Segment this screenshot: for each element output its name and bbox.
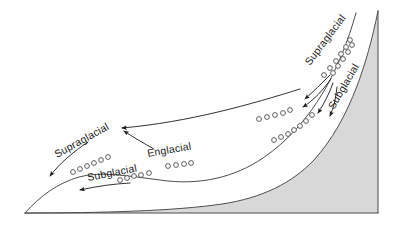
debris-particle [310, 113, 315, 118]
debris-particle [272, 138, 277, 143]
debris-particle [281, 111, 286, 116]
debris-particle [99, 158, 104, 163]
debris-particle [189, 161, 194, 166]
debris-particle [92, 161, 97, 166]
debris-particle [339, 52, 344, 57]
debris-particle [118, 178, 123, 183]
debris-particle [288, 108, 293, 113]
debris-englacial-right [257, 108, 293, 122]
debris-particle [85, 164, 90, 169]
debris-particle [304, 119, 309, 124]
diagram-canvas: SupraglacialSubglacialEnglacialSupraglac… [0, 0, 402, 229]
debris-particle [273, 113, 278, 118]
debris-englacial-center [166, 161, 194, 169]
debris-particle [78, 167, 83, 172]
debris-particle [292, 128, 297, 133]
debris-particle [106, 155, 111, 160]
debris-particle [344, 45, 349, 50]
debris-particle [71, 170, 76, 175]
debris-particle [139, 173, 144, 178]
debris-particle [265, 115, 270, 120]
debris-particle [331, 71, 336, 76]
debris-particle [334, 59, 339, 64]
debris-particle [174, 163, 179, 168]
debris-particle [166, 164, 171, 169]
debris-particle [286, 132, 291, 137]
debris-particle [147, 171, 152, 176]
debris-particle [346, 50, 351, 55]
debris-particle [257, 117, 262, 122]
debris-particle [279, 135, 284, 140]
debris-particle [322, 73, 327, 78]
debris-particle [341, 57, 346, 62]
debris-particle [182, 162, 187, 167]
debris-particle [328, 66, 333, 71]
glacier-debris-transport-figure: SupraglacialSubglacialEnglacialSupraglac… [0, 0, 402, 229]
debris-particle [336, 64, 341, 69]
label-englacial-center: Englacial [146, 139, 192, 159]
debris-particle [350, 43, 355, 48]
transport-arrow-supraglacial-long [122, 89, 300, 128]
debris-particle [298, 124, 303, 129]
debris-particle [125, 176, 130, 181]
debris-particle [348, 38, 353, 43]
label-supraglacial-left: Supraglacial [52, 120, 110, 160]
